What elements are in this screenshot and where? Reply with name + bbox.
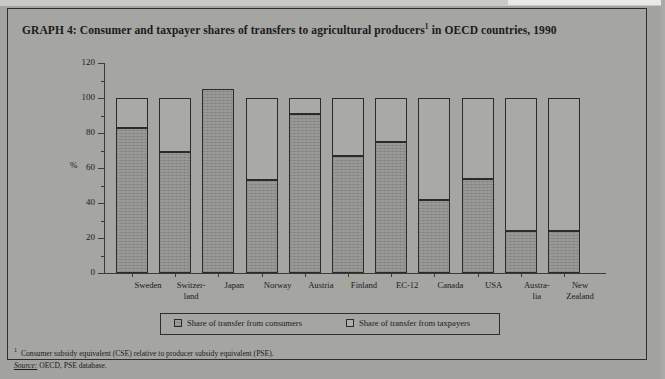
bar-segment-taxpayers	[159, 98, 191, 152]
footnote-marker: 1	[14, 347, 17, 353]
bar-segment-consumers	[462, 179, 494, 274]
bar-segment-taxpayers	[418, 98, 450, 200]
x-tick	[132, 273, 133, 277]
legend-swatch-consumers-icon	[174, 319, 182, 327]
bar-segment-taxpayers	[375, 98, 407, 142]
chart-legend: Share of transfer from consumers Share o…	[160, 313, 500, 335]
bar-11	[548, 98, 580, 273]
bar-10	[505, 98, 537, 273]
bar-segment-taxpayers	[246, 98, 278, 180]
footnote-1: 1Consumer subsidy equivalent (CSE) relat…	[14, 345, 434, 359]
x-tick	[305, 273, 306, 277]
bar-5	[289, 98, 321, 273]
plot-area: 020406080100120 SwedenSwitzer-landJapanN…	[104, 63, 604, 273]
y-tick-label: 100	[82, 92, 96, 102]
y-tick-major	[98, 273, 105, 274]
x-tick-label: NewZealand	[548, 280, 612, 301]
x-tick-label-line: New	[548, 280, 612, 291]
graph-title: GRAPH 4: Consumer and taxpayer shares of…	[22, 22, 622, 36]
source-line: Source: OECD, PSE database.	[14, 360, 434, 371]
bar-segment-taxpayers	[289, 98, 321, 114]
bar-1	[116, 98, 148, 273]
graph-title-prefix: GRAPH 4: Consumer and taxpayer shares of…	[22, 24, 425, 36]
y-tick-label: 80	[86, 127, 95, 137]
bar-8	[418, 98, 450, 273]
figure-notes: 1Consumer subsidy equivalent (CSE) relat…	[14, 345, 434, 371]
legend-label-consumers: Share of transfer from consumers	[187, 318, 302, 328]
x-tick-label-line: Zealand	[548, 291, 612, 302]
x-tick	[564, 273, 565, 277]
bar-segment-consumers	[505, 231, 537, 273]
x-tick	[434, 273, 435, 277]
legend-swatch-taxpayers-icon	[346, 319, 354, 327]
x-tick	[218, 273, 219, 277]
legend-item-taxpayers: Share of transfer from taxpayers	[346, 318, 470, 328]
x-tick	[348, 273, 349, 277]
graph-title-suffix: in OECD countries, 1990	[429, 24, 557, 36]
y-tick-label: 0	[91, 267, 96, 277]
bar-segment-taxpayers	[116, 98, 148, 128]
x-tick	[478, 273, 479, 277]
bar-2	[159, 98, 191, 273]
source-text: OECD, PSE database.	[37, 361, 106, 370]
bar-segment-taxpayers	[462, 98, 494, 179]
bar-4	[246, 98, 278, 273]
bar-segment-consumers	[375, 142, 407, 273]
bar-segment-consumers	[289, 114, 321, 273]
footnote-text: Consumer subsidy equivalent (CSE) relati…	[21, 349, 274, 358]
document-page: GRAPH 4: Consumer and taxpayer shares of…	[0, 0, 665, 379]
y-tick-label: 60	[86, 162, 95, 172]
bar-segment-consumers	[159, 152, 191, 273]
bar-6	[332, 98, 364, 273]
y-axis-label: %	[70, 160, 78, 170]
bar-segment-consumers	[116, 128, 148, 273]
bar-7	[375, 98, 407, 273]
bar-segment-taxpayers	[548, 98, 580, 231]
bar-segment-consumers	[246, 180, 278, 273]
x-axis-line	[104, 273, 606, 274]
legend-item-consumers: Share of transfer from consumers	[174, 318, 302, 328]
bar-segment-consumers	[332, 156, 364, 273]
x-tick-label-line: land	[159, 291, 223, 302]
y-tick-label: 120	[82, 57, 96, 67]
x-tick	[262, 273, 263, 277]
bar-segment-consumers	[418, 200, 450, 274]
y-tick-label: 20	[86, 232, 95, 242]
source-label: Source:	[14, 361, 37, 370]
bar-3	[202, 89, 234, 273]
bar-9	[462, 98, 494, 273]
x-tick	[521, 273, 522, 277]
bar-series-layer	[104, 63, 604, 273]
bar-segment-taxpayers	[332, 98, 364, 156]
x-tick	[391, 273, 392, 277]
bar-segment-consumers	[548, 231, 580, 273]
x-tick	[175, 273, 176, 277]
legend-label-taxpayers: Share of transfer from taxpayers	[359, 318, 470, 328]
y-tick-label: 40	[86, 197, 95, 207]
bar-segment-consumers	[202, 89, 234, 273]
bar-segment-taxpayers	[505, 98, 537, 231]
